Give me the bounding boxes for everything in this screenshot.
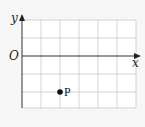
coordinate-plane: y x O P bbox=[0, 0, 145, 127]
point-marker-icon bbox=[57, 89, 63, 95]
x-axis-label: x bbox=[132, 56, 139, 70]
y-axis-label: y bbox=[10, 11, 18, 25]
point-label: P bbox=[64, 85, 71, 99]
coordinate-diagram: y x O P bbox=[0, 0, 145, 127]
origin-label: O bbox=[9, 49, 19, 63]
